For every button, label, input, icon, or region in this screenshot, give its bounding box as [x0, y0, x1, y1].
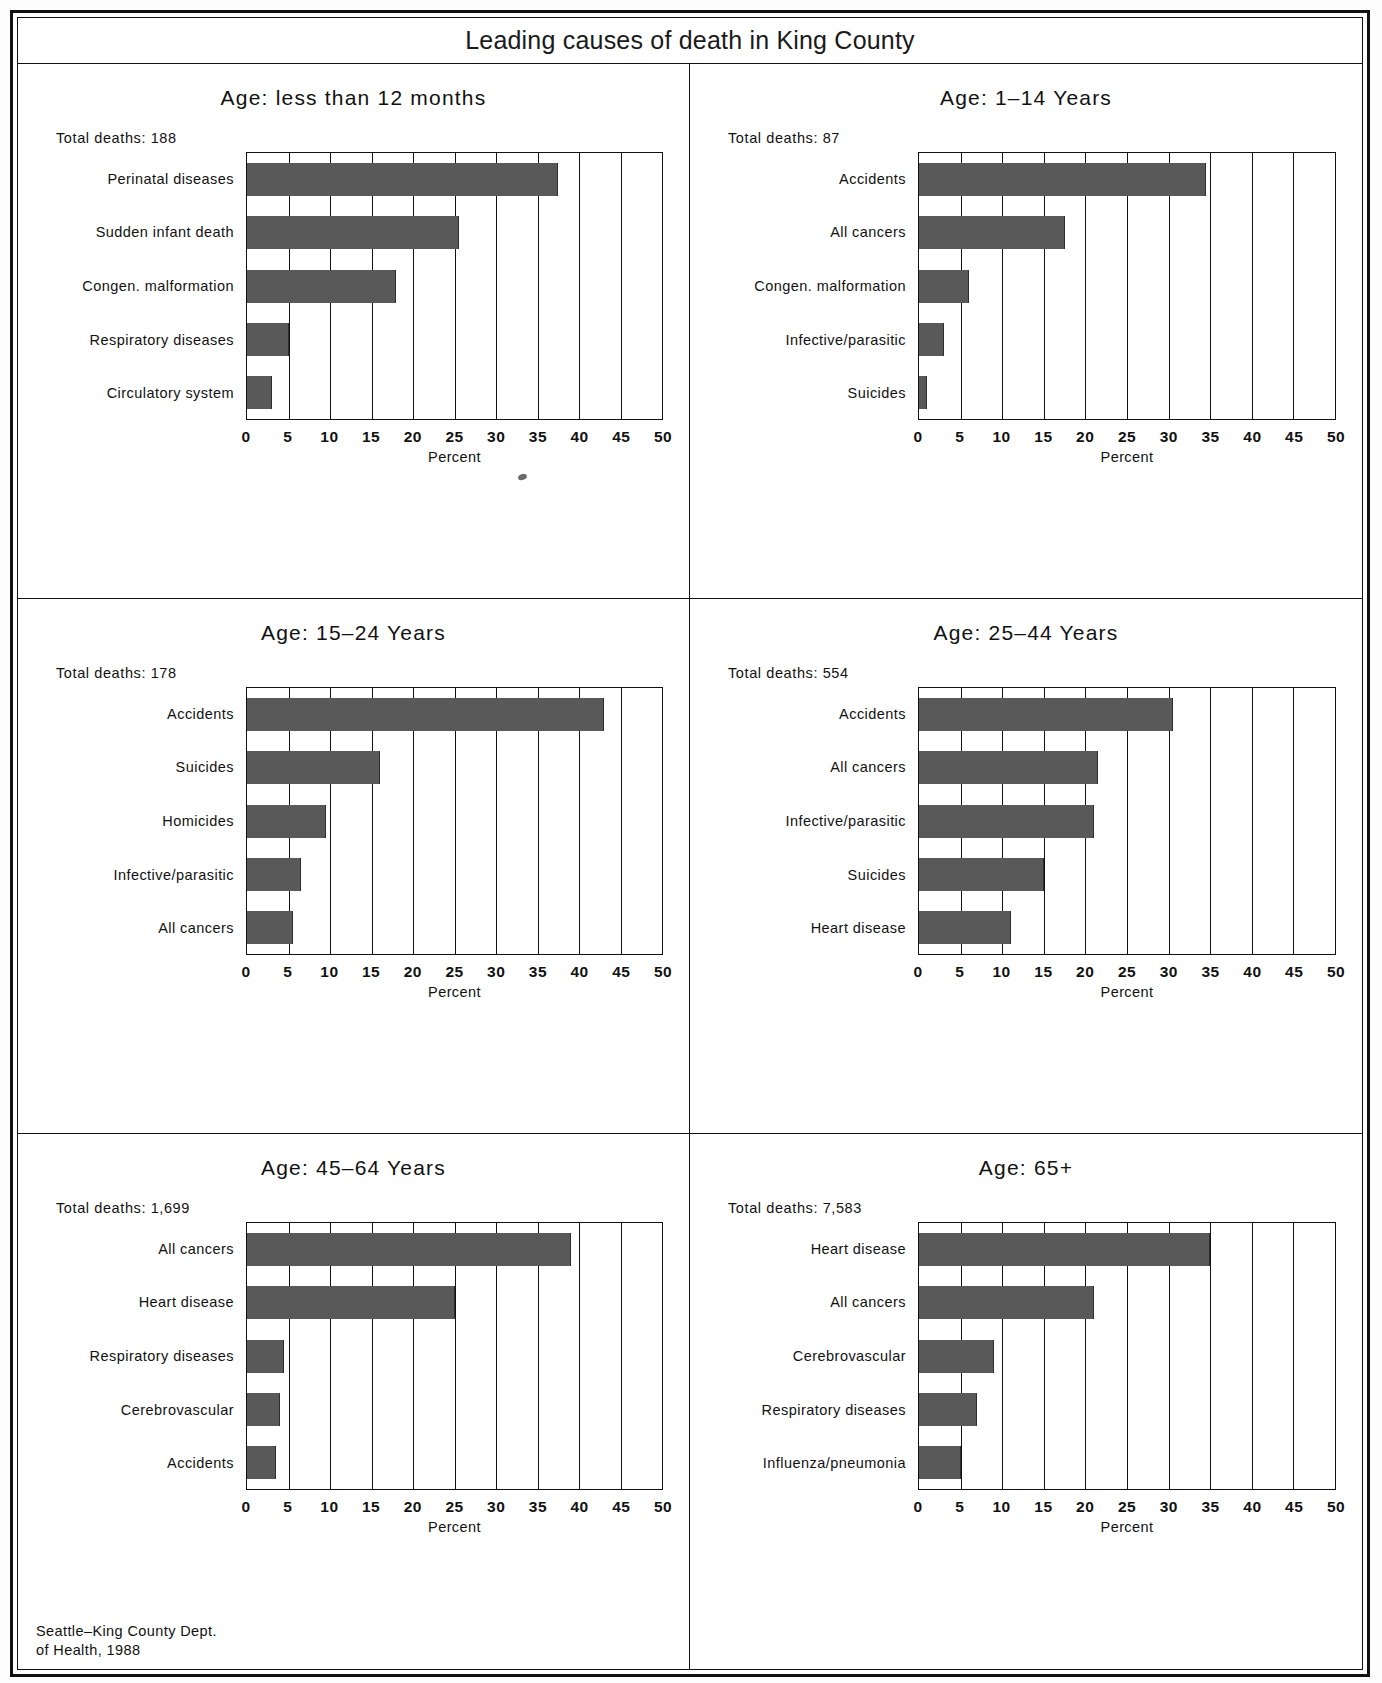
bar	[247, 751, 380, 784]
x-tick-label: 10	[320, 1498, 338, 1516]
plot-frame	[918, 1222, 1336, 1490]
x-tick-label: 45	[1285, 963, 1303, 981]
bar	[919, 163, 1206, 196]
x-axis-title: Percent	[918, 1519, 1336, 1535]
category-label: Respiratory diseases	[690, 1383, 918, 1437]
x-tick-label: 15	[362, 1498, 380, 1516]
chart-area: Perinatal diseasesSudden infant deathCon…	[18, 152, 689, 468]
bar-slot	[919, 688, 1335, 741]
x-tick-label: 5	[955, 1498, 964, 1516]
bar-slot	[247, 206, 662, 259]
x-tick-label: 30	[1160, 1498, 1178, 1516]
x-axis-spacer	[18, 957, 246, 1003]
category-label: Infective/parasitic	[690, 313, 918, 367]
x-tick-label: 45	[612, 963, 630, 981]
category-label: Accidents	[690, 152, 918, 206]
x-axis-spacer	[690, 422, 918, 468]
total-deaths-label: Total deaths: 7,583	[728, 1200, 1362, 1216]
x-tick-label: 30	[1160, 428, 1178, 446]
x-axis-ticks: 05101520253035404550Percent	[918, 422, 1362, 468]
category-label: Perinatal diseases	[18, 152, 246, 206]
bar	[247, 323, 289, 356]
bar-slot	[919, 206, 1335, 259]
x-axis-spacer	[18, 422, 246, 468]
x-axis-ticks: 05101520253035404550Percent	[918, 957, 1362, 1003]
x-tick-label: 45	[1285, 1498, 1303, 1516]
total-deaths-label: Total deaths: 188	[56, 130, 689, 146]
bar-slot	[247, 1383, 662, 1436]
category-label: Heart disease	[690, 1222, 918, 1276]
x-tick-label: 5	[283, 963, 292, 981]
x-tick-label: 30	[1160, 963, 1178, 981]
x-axis-title: Percent	[246, 1519, 663, 1535]
x-tick-label: 30	[487, 428, 505, 446]
category-label: Cerebrovascular	[690, 1329, 918, 1383]
x-tick-label: 20	[404, 428, 422, 446]
bar-series	[247, 153, 662, 419]
bar	[247, 1446, 276, 1479]
bar	[919, 805, 1094, 838]
x-tick-label: 25	[1118, 963, 1136, 981]
x-tick-label: 35	[529, 428, 547, 446]
x-tick-label: 50	[1327, 963, 1345, 981]
x-tick-label: 35	[529, 1498, 547, 1516]
x-tick-label: 0	[241, 963, 250, 981]
panel-title: Age: 15–24 Years	[18, 621, 689, 645]
chart-panel: Age: 25–44 YearsTotal deaths: 554Acciden…	[690, 599, 1362, 1134]
category-label: Suicides	[690, 848, 918, 902]
x-axis-title: Percent	[246, 984, 663, 1000]
bar-slot	[919, 1329, 1335, 1382]
panel-title: Age: 25–44 Years	[690, 621, 1362, 645]
bar	[247, 1286, 455, 1319]
x-tick-label: 25	[445, 963, 463, 981]
bar	[919, 1286, 1094, 1319]
x-tick-label: 50	[1327, 428, 1345, 446]
category-axis: Heart diseaseAll cancersCerebrovascularR…	[690, 1222, 918, 1490]
x-tick-label: 0	[913, 963, 922, 981]
panel-title: Age: 1–14 Years	[690, 86, 1362, 110]
x-tick-label: 40	[570, 963, 588, 981]
chart-area: Heart diseaseAll cancersCerebrovascularR…	[690, 1222, 1362, 1538]
category-label: Suicides	[690, 366, 918, 420]
chart-panel: Age: less than 12 monthsTotal deaths: 18…	[18, 64, 690, 599]
x-tick-label: 15	[1034, 1498, 1052, 1516]
bar	[247, 270, 396, 303]
category-label: Infective/parasitic	[690, 794, 918, 848]
category-label: Suicides	[18, 741, 246, 795]
x-axis-ticks: 05101520253035404550Percent	[246, 1492, 689, 1538]
bar	[919, 323, 944, 356]
bar	[247, 1340, 284, 1373]
x-axis-spacer	[18, 1492, 246, 1538]
x-axis-title: Percent	[918, 984, 1336, 1000]
category-label: Homicides	[18, 794, 246, 848]
x-tick-label: 15	[362, 963, 380, 981]
category-axis: AccidentsAll cancersInfective/parasiticS…	[690, 687, 918, 955]
category-label: Heart disease	[18, 1276, 246, 1330]
x-tick-label: 35	[1201, 428, 1219, 446]
panel-title: Age: 65+	[690, 1156, 1362, 1180]
x-tick-label: 30	[487, 963, 505, 981]
x-tick-label: 0	[241, 1498, 250, 1516]
source-note: Seattle–King County Dept. of Health, 198…	[36, 1622, 217, 1661]
category-label: Heart disease	[690, 901, 918, 955]
x-tick-label: 35	[1201, 1498, 1219, 1516]
total-deaths-label: Total deaths: 178	[56, 665, 689, 681]
x-tick-label: 40	[1243, 1498, 1261, 1516]
x-axis-ticks: 05101520253035404550Percent	[918, 1492, 1362, 1538]
bar	[919, 376, 927, 409]
x-tick-label: 50	[654, 428, 672, 446]
x-tick-label: 5	[955, 963, 964, 981]
x-tick-label: 25	[1118, 428, 1136, 446]
bar-slot	[247, 259, 662, 312]
bar	[919, 1446, 961, 1479]
x-tick-label: 20	[1076, 963, 1094, 981]
bar-slot	[919, 1223, 1335, 1276]
bar-slot	[247, 1436, 662, 1489]
plot-wrapper	[918, 687, 1362, 955]
bar	[247, 216, 459, 249]
x-tick-label: 5	[283, 428, 292, 446]
x-tick-label: 25	[1118, 1498, 1136, 1516]
bar-slot	[919, 901, 1335, 954]
panel-title: Age: 45–64 Years	[18, 1156, 689, 1180]
bar-slot	[919, 1276, 1335, 1329]
